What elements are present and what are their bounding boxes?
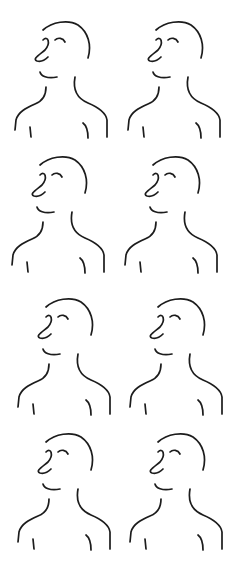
figure-row1-col2 bbox=[128, 22, 220, 138]
bald-head-profile-icon bbox=[18, 299, 110, 415]
figure-row2-col2 bbox=[125, 157, 217, 273]
bald-head-profile-icon bbox=[128, 22, 220, 138]
figure-row3-col2 bbox=[130, 299, 222, 415]
bald-head-profile-icon bbox=[125, 157, 217, 273]
figure-row4-col1 bbox=[18, 434, 110, 550]
bald-head-profile-icon bbox=[15, 22, 107, 138]
bald-head-profile-icon bbox=[12, 157, 104, 273]
drawing-sheet: Line drawings of a bald figure in profil… bbox=[0, 0, 241, 571]
bald-head-profile-icon bbox=[18, 434, 110, 550]
figure-row4-col2 bbox=[130, 434, 222, 550]
figure-row2-col1 bbox=[12, 157, 104, 273]
figure-row1-col1 bbox=[15, 22, 107, 138]
bald-head-profile-icon bbox=[130, 299, 222, 415]
figure-row3-col1 bbox=[18, 299, 110, 415]
figures-grid bbox=[0, 0, 241, 571]
bald-head-profile-icon bbox=[130, 434, 222, 550]
